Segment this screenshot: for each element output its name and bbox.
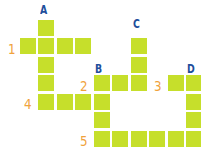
crossword-cell[interactable] — [38, 94, 54, 110]
across-clue-number-5: 5 — [80, 134, 88, 148]
crossword-cell[interactable] — [38, 38, 54, 54]
crossword-cell[interactable] — [131, 57, 147, 73]
crossword-cell[interactable] — [94, 94, 110, 110]
crossword-cell[interactable] — [186, 131, 201, 147]
crossword-cell[interactable] — [149, 131, 165, 147]
crossword-cell[interactable] — [20, 38, 36, 54]
crossword-cell[interactable] — [94, 112, 110, 128]
crossword-cell[interactable] — [186, 94, 201, 110]
crossword-grid: ABCD12345 — [0, 0, 201, 160]
crossword-cell[interactable] — [94, 75, 110, 91]
down-clue-label-b: B — [95, 62, 102, 75]
crossword-cell[interactable] — [131, 38, 147, 54]
crossword-cell[interactable] — [75, 94, 91, 110]
crossword-cell[interactable] — [75, 38, 91, 54]
crossword-cell[interactable] — [38, 57, 54, 73]
crossword-cell[interactable] — [112, 131, 128, 147]
down-clue-label-c: C — [133, 17, 140, 30]
crossword-cell[interactable] — [57, 38, 73, 54]
down-clue-label-d: D — [187, 62, 195, 75]
crossword-cell[interactable] — [168, 131, 184, 147]
crossword-cell[interactable] — [94, 131, 110, 147]
crossword-cell[interactable] — [38, 20, 54, 36]
across-clue-number-1: 1 — [8, 42, 16, 56]
across-clue-number-2: 2 — [80, 79, 88, 93]
crossword-cell[interactable] — [186, 75, 201, 91]
across-clue-number-3: 3 — [154, 79, 162, 93]
crossword-cell[interactable] — [186, 112, 201, 128]
crossword-cell[interactable] — [38, 75, 54, 91]
crossword-cell[interactable] — [57, 94, 73, 110]
across-clue-number-4: 4 — [24, 97, 32, 111]
crossword-cell[interactable] — [131, 75, 147, 91]
crossword-cell[interactable] — [131, 131, 147, 147]
down-clue-label-a: A — [40, 3, 47, 16]
crossword-cell[interactable] — [112, 75, 128, 91]
crossword-cell[interactable] — [168, 75, 184, 91]
